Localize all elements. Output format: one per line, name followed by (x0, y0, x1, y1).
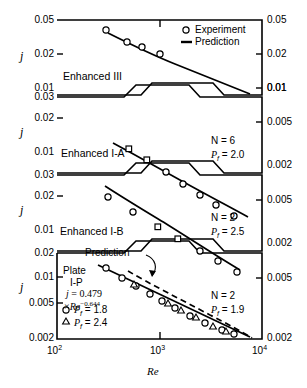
data-point (147, 291, 153, 297)
data-point (103, 265, 109, 271)
data-point (157, 51, 163, 57)
data-point (144, 157, 150, 163)
callout-arrowhead-p4 (149, 270, 156, 277)
ytick-p4-right-2: 0.002 (267, 333, 292, 343)
data-point (126, 146, 132, 152)
data-point (175, 236, 181, 242)
panel-label-enhanced-iii: Enhanced III (63, 71, 122, 82)
ytick-p1-right-1: 0.05 (267, 15, 286, 25)
xtick-1e4: 104 (252, 344, 267, 356)
xtick-1e2: 102 (47, 344, 62, 356)
legend-label-prediction: Prediction (195, 37, 239, 47)
annotation-pf-p4: Pf = 1.9 (211, 305, 244, 317)
data-point (155, 224, 161, 230)
data-point (213, 202, 219, 208)
ytick-p2-left-1: 0.03 (14, 92, 54, 102)
callout-label-prediction: Prediction (85, 248, 129, 258)
plate-label-line1: Plate (63, 266, 86, 276)
ytick-p4-left-1: 0.02 (14, 248, 54, 258)
ytick-p3-left-3: 0.01 (14, 225, 54, 235)
y-axis-symbol-p3: j (20, 204, 23, 216)
data-point (197, 192, 203, 198)
annotation-n-p4: N = 2 (211, 291, 235, 301)
panel-label-enhanced-ib: Enhanced I-B (60, 226, 124, 237)
panel-label-enhanced-ia: Enhanced I-A (61, 148, 125, 159)
ytick-p1-left-2: 0.02 (14, 49, 54, 59)
ytick-p4-left-2: 0.01 (14, 272, 54, 282)
data-point (231, 331, 237, 337)
data-point (103, 27, 109, 33)
annotation-n-p3: N = 2 (211, 213, 235, 223)
panel4-legend-pf24-value: = 2.4 (82, 317, 107, 328)
data-point (193, 314, 200, 320)
ytick-p2-left-3: 0.01 (14, 147, 54, 157)
data-point (159, 298, 165, 304)
legend-marker-pf24 (63, 318, 70, 324)
x-axis-title: Re (147, 366, 159, 377)
ytick-p4-left-3: 0.005 (8, 298, 54, 308)
data-point (139, 44, 145, 50)
ytick-p1-right-2: 0.02 (267, 49, 286, 59)
data-point (202, 320, 208, 326)
xtick-1e3-exponent: 3 (161, 344, 165, 351)
equation-value: = 0.479 (69, 288, 102, 299)
y-axis-symbol-p2: j (20, 126, 23, 138)
equation-line1: j = 0.479 (66, 289, 102, 299)
ytick-p3-right-2: 0.002 (267, 238, 292, 248)
data-point (172, 305, 178, 311)
ytick-p1-left-1: 0.05 (14, 15, 54, 25)
ytick-p2-left-2: 0.02 (14, 113, 54, 123)
data-point (234, 269, 240, 275)
xtick-1e3-base: 10 (150, 345, 161, 356)
ytick-p2-right-2: 0.002 (267, 160, 292, 170)
data-point (119, 275, 125, 281)
xtick-1e2-exponent: 2 (58, 344, 62, 351)
xtick-1e4-base: 10 (252, 345, 263, 356)
data-point (163, 169, 169, 175)
y-axis-symbol-p4: j (20, 281, 23, 293)
data-point (180, 181, 186, 187)
plate-label-line2: I-P (70, 278, 83, 288)
ytick-p3-left-2: 0.02 (14, 191, 54, 201)
panel4-legend-pf24: Pf = 2.4 (74, 318, 107, 330)
ytick-p2-right-0: 0.01 (267, 83, 286, 93)
annotation-pf-p2: Pf = 2.0 (211, 150, 244, 162)
panel4-legend-pf18: Pf = 1.8 (74, 305, 107, 317)
legend-label-experiment: Experiment (195, 25, 246, 35)
ytick-p4-left-4: 0.002 (8, 333, 54, 343)
ytick-p3-right-1: 0.005 (267, 195, 292, 205)
xtick-1e4-exponent: 4 (263, 344, 267, 351)
data-point (130, 209, 136, 215)
legend-marker-experiment (183, 27, 189, 33)
panel4-legend-pf18-value: = 1.8 (82, 304, 107, 315)
data-point (124, 39, 130, 45)
annotation-pf-value-p2: = 2.0 (219, 149, 244, 160)
data-point (215, 258, 221, 264)
data-point (187, 313, 193, 319)
xtick-1e2-base: 10 (47, 345, 58, 356)
ytick-p2-right-1: 0.005 (267, 117, 292, 127)
data-point (105, 194, 111, 200)
data-point (210, 323, 217, 329)
xtick-1e3: 103 (150, 344, 165, 356)
annotation-pf-value-p3: = 2.5 (219, 226, 244, 237)
data-point (197, 248, 203, 254)
ytick-p3-left-1: 0.03 (14, 170, 54, 180)
annotation-n-p2: N = 6 (211, 136, 235, 146)
annotation-pf-value-p4: = 1.9 (219, 304, 244, 315)
annotation-pf-p3: Pf = 2.5 (211, 227, 244, 239)
ytick-p4-right-1: 0.005 (267, 273, 292, 283)
